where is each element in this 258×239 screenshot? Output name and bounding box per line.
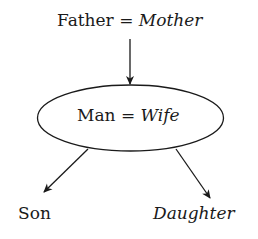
- father-text: Father: [57, 10, 114, 30]
- wife-text: Wife: [141, 105, 180, 125]
- middle-node-label: Man = Wife: [77, 107, 180, 124]
- son-label: Son: [18, 205, 51, 222]
- equals-sign: =: [121, 105, 135, 125]
- man-text: Man: [77, 105, 116, 125]
- arrow-to-son: [44, 149, 88, 192]
- equals-sign: =: [119, 10, 133, 30]
- kinship-diagram: Father = Mother Man = Wife Son Daughter: [0, 0, 258, 239]
- mother-text: Mother: [139, 10, 203, 30]
- arrow-to-daughter: [176, 149, 210, 198]
- top-node-label: Father = Mother: [57, 12, 202, 29]
- daughter-label: Daughter: [153, 205, 235, 222]
